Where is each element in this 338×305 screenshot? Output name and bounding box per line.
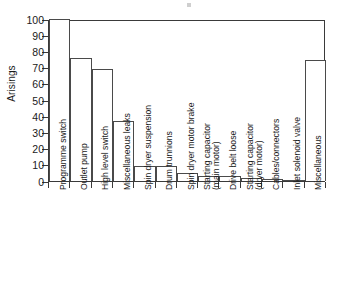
x-axis-category-label: Miscellaneous: [314, 136, 323, 190]
x-axis-category-label: High level switch: [101, 126, 110, 190]
y-tick-label: 60: [4, 79, 44, 89]
x-axis-category-label: Outlet pump: [80, 143, 89, 190]
x-tick-label: Inlet solenoid valve: [292, 117, 302, 190]
x-axis-category-label: Spin dryer suspension: [144, 105, 153, 190]
x-tick-label: Spin dryer suspension: [143, 105, 153, 190]
x-axis-category-label: Cables/connectors: [272, 119, 281, 190]
x-axis-category-label: Drive belt loose: [229, 131, 238, 190]
y-tick-label: 70: [4, 63, 44, 73]
x-tick-label: Outlet pump: [79, 143, 89, 190]
x-tick: [325, 182, 326, 188]
x-tick-label: Cables/connectors: [271, 119, 281, 190]
x-axis-category-label: Miscellaneous leaks: [123, 113, 132, 190]
y-tick-label: 0: [4, 177, 44, 187]
x-axis-category-label: Drum trunnions: [165, 131, 174, 190]
x-axis-category-label: Programme switch: [59, 119, 68, 190]
x-tick: [155, 182, 156, 188]
y-tick-label: 90: [4, 31, 44, 41]
x-tick: [133, 182, 134, 188]
y-tick-label: 10: [4, 160, 44, 170]
x-axis-category-label: Inlet solenoid valve: [293, 117, 302, 190]
x-tick: [304, 182, 305, 188]
bar-chart: Arisings 0102030405060708090100 Programm…: [0, 0, 338, 305]
y-tick-label: 20: [4, 144, 44, 154]
y-tick-label: 50: [4, 96, 44, 106]
x-tick-label: Starting capacitor: [245, 123, 255, 190]
x-tick-label: Programme switch: [58, 119, 68, 190]
x-tick-label: Miscellaneous: [313, 136, 323, 190]
y-tick-label: 30: [4, 128, 44, 138]
x-tick: [282, 182, 283, 188]
x-axis-category-label: Starting capacitor(main motor): [203, 123, 221, 190]
x-tick: [240, 182, 241, 188]
x-axis-category-label: Starting capacitor(dryer motor): [246, 123, 264, 190]
x-tick: [48, 182, 49, 188]
x-tick-label: Drive belt loose: [228, 131, 238, 190]
x-tick-label: Miscellaneous leaks: [122, 113, 132, 190]
y-tick-label: 100: [4, 15, 44, 25]
x-tick-label-line2: (main motor): [212, 123, 221, 190]
x-tick: [176, 182, 177, 188]
x-tick: [69, 182, 70, 188]
x-tick: [197, 182, 198, 188]
y-tick-label: 40: [4, 112, 44, 122]
x-tick-label: High level switch: [100, 126, 110, 190]
x-tick-label: Spin dryer motor brake: [186, 103, 196, 190]
y-tick-label: 80: [4, 47, 44, 57]
x-axis-category-label: Spin dryer motor brake: [187, 103, 196, 190]
x-tick-label-line2: (dryer motor): [255, 123, 264, 190]
x-tick-label: Drum trunnions: [164, 131, 174, 190]
x-tick: [112, 182, 113, 188]
x-tick: [91, 182, 92, 188]
image-artifact-speck: [187, 3, 191, 7]
